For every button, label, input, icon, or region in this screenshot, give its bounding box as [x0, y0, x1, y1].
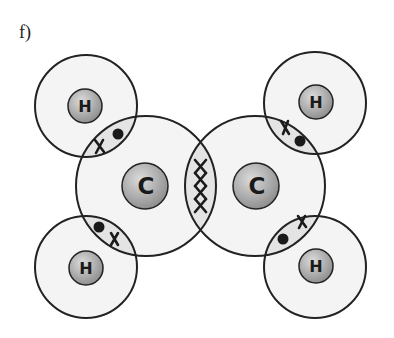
- dot-electron: [94, 222, 105, 233]
- nucleus-c2: C: [233, 163, 279, 209]
- dot-electron: [295, 136, 306, 147]
- atom-symbol-h3: H: [79, 259, 92, 278]
- dot-electron: [278, 234, 289, 245]
- nucleus-h1: H: [68, 89, 102, 123]
- atom-symbol-c1: C: [138, 173, 155, 199]
- atom-symbol-h4: H: [309, 257, 322, 276]
- nucleus-c1: C: [122, 163, 168, 209]
- ethene-diagram: H C C H H H: [0, 0, 394, 338]
- atom-symbol-h1: H: [78, 97, 91, 116]
- nucleus-h2: H: [299, 85, 333, 119]
- atom-symbol-h2: H: [309, 93, 322, 112]
- dot-electron: [113, 129, 124, 140]
- nucleus-h3: H: [69, 251, 103, 285]
- nucleus-h4: H: [299, 249, 333, 283]
- atom-symbol-c2: C: [249, 173, 266, 199]
